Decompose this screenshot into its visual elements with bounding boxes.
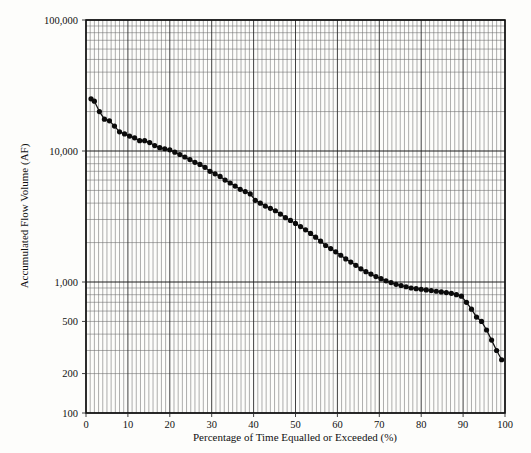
y-axis-title: Accumulated Flow Volume (AF) — [18, 143, 31, 288]
x-tick-label: 70 — [374, 419, 385, 430]
x-axis-title: Percentage of Time Equalled or Exceeded … — [193, 431, 397, 444]
y-tick-label: 500 — [62, 316, 78, 327]
x-tick-label: 10 — [123, 419, 134, 430]
x-tick-label: 50 — [290, 419, 301, 430]
x-tick-label: 60 — [332, 419, 343, 430]
figure-container: 1002005001,00010,000100,000 010203040506… — [0, 0, 531, 453]
x-tick-label: 0 — [83, 419, 88, 430]
x-tick-label: 20 — [165, 419, 176, 430]
x-tick-label: 90 — [458, 419, 469, 430]
x-tick-label: 80 — [416, 419, 427, 430]
x-tick-label: 100 — [497, 419, 513, 430]
chart-background — [0, 0, 531, 453]
y-tick-label: 1,000 — [54, 277, 78, 288]
x-tick-label: 30 — [206, 419, 217, 430]
y-tick-label: 100,000 — [44, 15, 78, 26]
x-tick-label: 40 — [248, 419, 259, 430]
y-tick-label: 10,000 — [49, 146, 78, 157]
y-tick-label: 100 — [62, 408, 78, 419]
y-tick-label: 200 — [62, 368, 78, 379]
flow-duration-curve-chart: 1002005001,00010,000100,000 010203040506… — [0, 0, 531, 453]
